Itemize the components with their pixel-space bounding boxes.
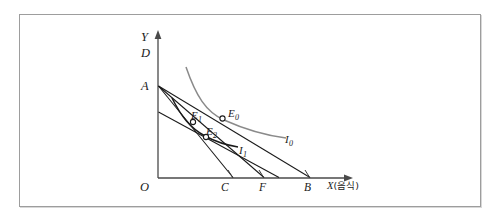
indifference-curve-I0 — [186, 67, 286, 138]
curve-label-I1: I1 — [239, 145, 247, 156]
equilibrium-marker-E0 — [220, 116, 225, 121]
curve-label-I0-sub: 0 — [289, 139, 293, 148]
equilibrium-label-E2: E2 — [206, 126, 217, 137]
equilibrium-label-E1-sub: 1 — [198, 115, 202, 124]
curve-label-I1-sub: 1 — [243, 150, 247, 159]
curve-label-I0: I0 — [285, 134, 293, 145]
equilibrium-label-E2-sub: 2 — [213, 131, 217, 140]
budget-line-AB — [159, 86, 311, 178]
x-axis-label-note: (음식) — [333, 180, 358, 191]
axis-point-label-A: A — [141, 80, 149, 93]
axis-point-label-F: F — [259, 182, 266, 194]
axis-point-label-D: D — [141, 47, 150, 60]
equilibrium-label-E1-base: E — [191, 109, 198, 121]
equilibrium-label-E2-base: E — [206, 125, 213, 137]
equilibrium-label-E1: E1 — [191, 110, 202, 121]
y-axis-label: Y — [141, 31, 148, 44]
diagram-canvas — [0, 0, 500, 222]
tick-mark-B — [305, 170, 310, 178]
equilibrium-label-E0-base: E — [228, 107, 235, 119]
tick-mark-C — [228, 170, 233, 178]
axis-point-label-B: B — [304, 182, 311, 194]
equilibrium-label-E0-sub: 0 — [235, 113, 239, 122]
equilibrium-label-E0: E0 — [228, 108, 239, 119]
y-axis — [155, 30, 162, 178]
x-axis — [158, 175, 353, 182]
origin-label: O — [140, 181, 149, 194]
x-axis-label: X(음식) — [327, 181, 359, 192]
figure-root: Y D A O C F B X(음식) E0 E1 E2 I0 I1 — [0, 0, 500, 222]
axis-point-label-C: C — [221, 182, 229, 194]
